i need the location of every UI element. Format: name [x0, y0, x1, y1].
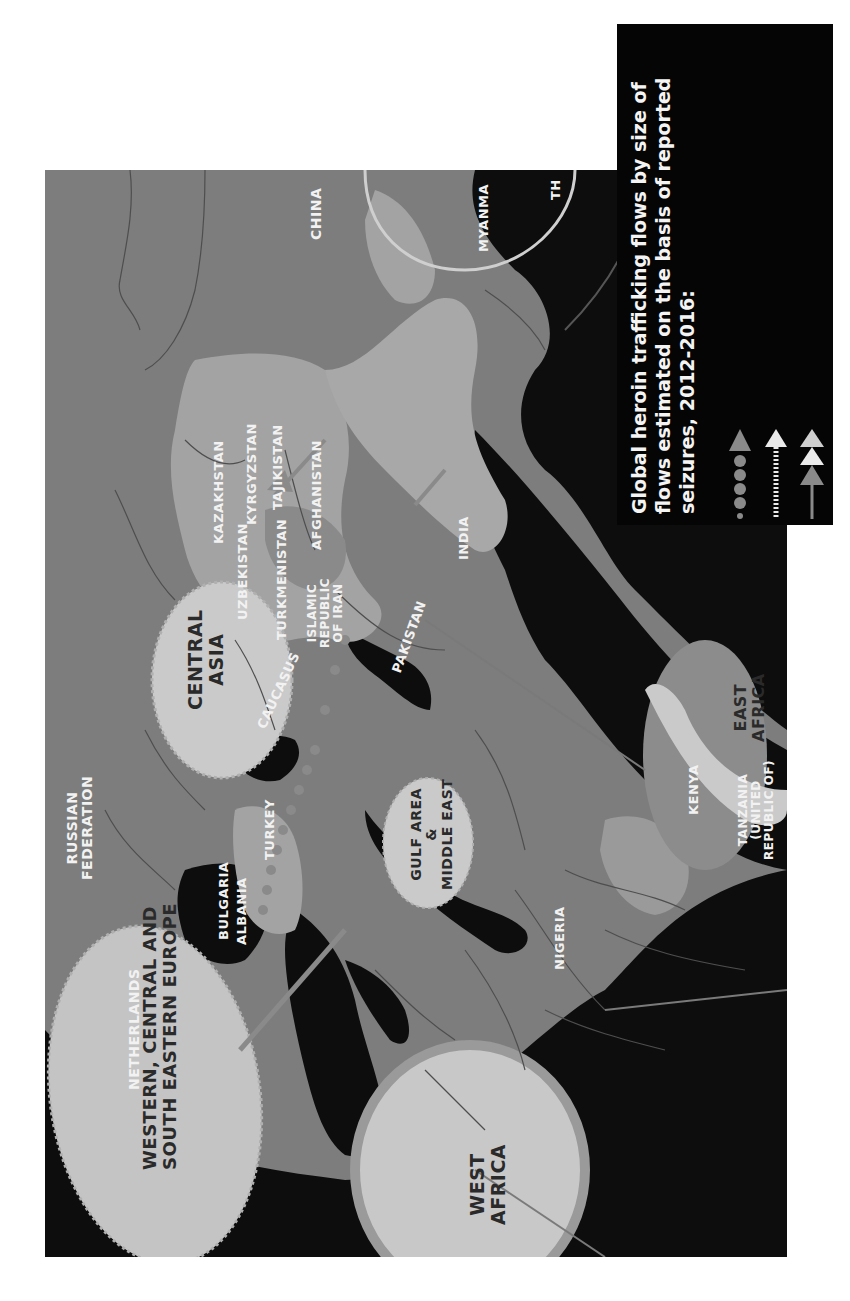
label-india: INDIA — [457, 516, 471, 560]
label-turkmenistan: TURKMENISTAN — [275, 519, 289, 640]
label-thailand: TH — [549, 179, 563, 200]
label-kenya: KENYA — [687, 764, 701, 815]
dashed-arrow-icon — [765, 429, 787, 519]
label-netherlands: NETHERLANDS — [127, 968, 142, 1090]
label-albania: ALBANIA — [235, 877, 249, 945]
label-western-europe: WESTERN, CENTRAL AND SOUTH EASTERN EUROP… — [140, 903, 180, 1170]
label-gulf-area: GULF AREA & MIDDLE EAST — [409, 779, 455, 890]
label-uzbekistan: UZBEKISTAN — [236, 523, 250, 620]
label-east-africa: EAST AFRICA — [732, 673, 767, 742]
label-tanzania: TANZANIA (UNITED REPUBLIC OF) — [737, 760, 777, 860]
label-turkey: TURKEY — [263, 799, 277, 860]
label-china: CHINA — [309, 188, 324, 240]
label-nigeria: NIGERIA — [553, 906, 567, 970]
dotted-arrow-icon — [729, 429, 751, 519]
label-myanmar: MYANMA — [477, 184, 491, 252]
legend-title: Global heroin trafficking flows by size … — [627, 78, 699, 514]
label-iran: ISLAMIC REPUBLIC OF IRAN — [306, 578, 346, 648]
multi-head-arrow-icon — [800, 429, 824, 519]
label-tajikistan: TAJIKISTAN — [271, 424, 285, 510]
legend-panel: Global heroin trafficking flows by size … — [617, 24, 833, 525]
label-kazakhstan: KAZAKHSTAN — [212, 440, 226, 544]
label-afghanistan: AFGHANISTAN — [310, 440, 324, 550]
label-russia: RUSSIAN FEDERATION — [65, 776, 96, 880]
label-west-africa: WEST AFRICA — [467, 1144, 509, 1225]
label-kyrgyzstan: KYRGYZSTAN — [245, 423, 259, 525]
label-bulgaria: BULGARIA — [217, 862, 231, 940]
label-central-asia: CENTRAL ASIA — [185, 609, 227, 710]
